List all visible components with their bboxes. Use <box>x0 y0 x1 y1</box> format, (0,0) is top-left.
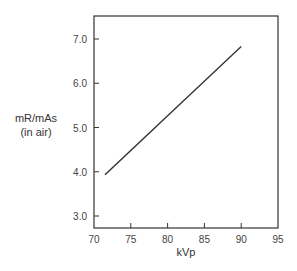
x-tick-label: 85 <box>199 234 211 245</box>
x-axis-title: kVp <box>177 246 196 258</box>
data-series <box>105 47 241 175</box>
y-tick-label: 5.0 <box>73 123 87 134</box>
series-line <box>105 47 241 175</box>
y-tick-label: 6.0 <box>73 78 87 89</box>
y-axis-title-line2: (in air) <box>20 126 51 138</box>
chart: 707580859095 3.04.05.06.07.0 kVp mR/mAs … <box>0 0 297 271</box>
plot-frame <box>94 16 278 228</box>
x-axis-ticks: 707580859095 <box>88 223 284 245</box>
x-tick-label: 70 <box>88 234 100 245</box>
y-axis-title-line1: mR/mAs <box>15 112 58 124</box>
y-tick-label: 3.0 <box>73 211 87 222</box>
x-tick-label: 95 <box>272 234 284 245</box>
y-tick-label: 4.0 <box>73 167 87 178</box>
x-tick-label: 75 <box>125 234 137 245</box>
x-tick-label: 90 <box>236 234 248 245</box>
y-axis-ticks: 3.04.05.06.07.0 <box>73 34 99 222</box>
x-tick-label: 80 <box>162 234 174 245</box>
y-tick-label: 7.0 <box>73 34 87 45</box>
